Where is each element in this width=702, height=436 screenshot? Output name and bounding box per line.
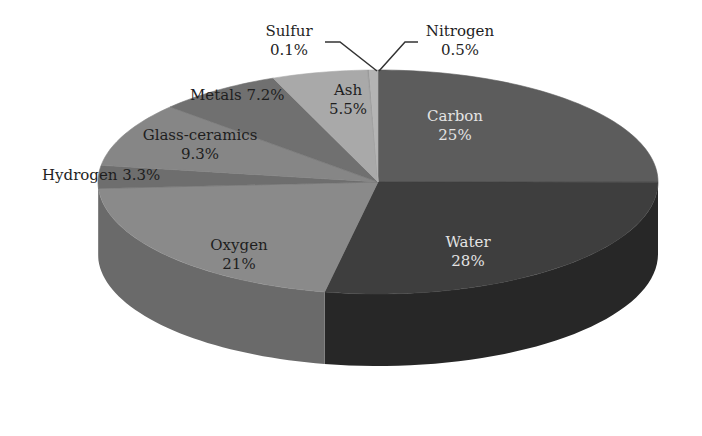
slice-label-hydrogen: Hydrogen 3.3% [42, 166, 160, 185]
slice-label-glass-ceramics: Glass-ceramics 9.3% [143, 126, 258, 164]
slice-label-water: Water 28% [445, 233, 490, 271]
slice-label-ash: Ash 5.5% [329, 81, 367, 119]
nitrogen-name: Nitrogen [426, 22, 494, 41]
slice-label-carbon: Carbon 25% [427, 107, 483, 145]
sulfur-name: Sulfur [265, 22, 312, 41]
slice-label-oxygen: Oxygen 21% [210, 236, 267, 274]
pie-slice-carbon [378, 70, 658, 182]
carbon-name: Carbon [427, 107, 483, 126]
water-name: Water [445, 233, 490, 252]
glass-ceramics-name: Glass-ceramics [143, 126, 258, 145]
metals-text: Metals 7.2% [190, 86, 285, 105]
hydrogen-text: Hydrogen 3.3% [42, 166, 160, 185]
sulfur-leader-line [325, 42, 377, 71]
leader-lines [325, 42, 418, 71]
slice-label-metals: Metals 7.2% [190, 86, 285, 105]
oxygen-name: Oxygen [210, 236, 267, 255]
sulfur-pct: 0.1% [265, 41, 312, 60]
pie-top-faces [98, 70, 658, 294]
oxygen-pct: 21% [210, 255, 267, 274]
glass-ceramics-pct: 9.3% [143, 145, 258, 164]
slice-label-nitrogen: Nitrogen 0.5% [426, 22, 494, 60]
water-pct: 28% [445, 252, 490, 271]
ash-pct: 5.5% [329, 100, 367, 119]
ash-name: Ash [329, 81, 367, 100]
slice-label-sulfur: Sulfur 0.1% [265, 22, 312, 60]
pie-chart [0, 0, 702, 436]
carbon-pct: 25% [427, 126, 483, 145]
nitrogen-leader-line [379, 42, 418, 71]
nitrogen-pct: 0.5% [426, 41, 494, 60]
